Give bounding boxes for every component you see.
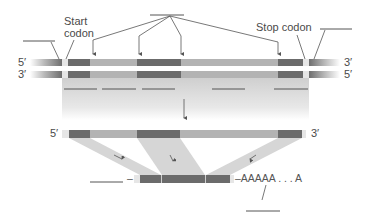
start-codon-label-line1: Start — [64, 16, 87, 27]
mrna-cap-dash: – — [127, 173, 133, 184]
transcription-region — [62, 78, 309, 120]
premrna-three-prime-label: 3′ — [311, 128, 319, 139]
dna-bottom-left-end-label: 3′ — [18, 69, 26, 80]
mature-mrna — [134, 175, 234, 183]
dna-bottom-right-end-label: 5′ — [344, 69, 352, 80]
dna-top-left-end-label: 5′ — [18, 57, 26, 68]
dna-top-strand — [30, 59, 340, 66]
dna-bottom-strand — [30, 71, 340, 78]
premrna-five-prime-label: 5′ — [50, 128, 58, 139]
start-codon-label-line2: codon — [64, 28, 94, 39]
dna-top-right-end-label: 3′ — [344, 57, 352, 68]
stop-codon-label: Stop codon — [256, 22, 312, 33]
gene-expression-diagram — [0, 0, 373, 218]
splicing-bands — [69, 138, 302, 175]
poly-a-tail-label: –AAAAA . . . A — [235, 173, 302, 184]
pre-mrna — [62, 130, 306, 138]
